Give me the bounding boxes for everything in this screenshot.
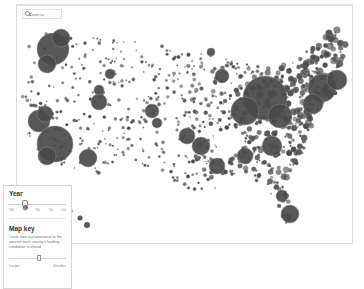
divider [9,218,66,219]
circle-size-slider[interactable] [9,254,66,262]
circle-size-labels: Larger Smaller [9,264,66,268]
smaller-label: Smaller [53,264,66,268]
side-panel: Year '88 '92 '96 '00 '04 Map key Circle … [3,185,72,289]
search-box[interactable] [22,9,62,19]
search-input[interactable] [29,12,59,17]
year-title: Year [9,190,66,197]
year-tick[interactable]: '96 [35,208,40,212]
map-key-title: Map key [9,225,66,232]
year-slider[interactable]: '88 '92 '96 '00 '04 [9,200,66,214]
year-tick[interactable]: '92 [22,208,27,212]
larger-label: Larger [9,264,20,268]
year-tick-labels: '88 '92 '96 '00 '04 [9,208,66,212]
year-tick[interactable]: '04 [61,208,66,212]
year-tick[interactable]: '88 [9,208,14,212]
map-key-description: Circle size is proportional to the amoun… [9,235,66,250]
year-tick[interactable]: '00 [48,208,53,212]
year-slider-track[interactable] [9,204,66,205]
circle-size-handle[interactable] [37,255,41,261]
search-icon [25,11,27,17]
